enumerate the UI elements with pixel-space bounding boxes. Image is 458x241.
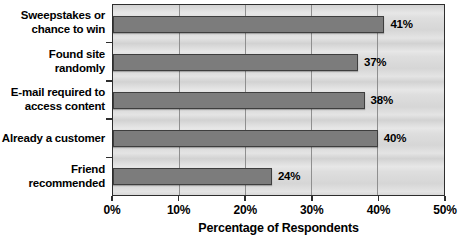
x-axis-tick-label: 50% bbox=[433, 203, 456, 217]
plot-area: 41%37%38%40%24% bbox=[112, 4, 445, 196]
category-labels: Sweepstakes or chance to winFound site r… bbox=[0, 4, 105, 196]
bar bbox=[113, 130, 378, 147]
category-label: Friend recommended bbox=[0, 158, 105, 196]
y-axis-tick bbox=[106, 42, 112, 44]
bar bbox=[113, 168, 272, 185]
x-axis-tick-label: 10% bbox=[167, 203, 190, 217]
x-axis-tick-label: 40% bbox=[367, 203, 390, 217]
x-axis-tick bbox=[378, 196, 380, 201]
bar-row: 24% bbox=[113, 157, 444, 195]
x-axis-tick bbox=[444, 196, 446, 201]
x-axis-title: Percentage of Respondents bbox=[112, 221, 445, 235]
bar-value-label: 40% bbox=[384, 132, 406, 144]
x-axis-tick bbox=[311, 196, 313, 201]
bar-chart: Sweepstakes or chance to winFound site r… bbox=[0, 0, 458, 241]
x-axis-tick-label: 0% bbox=[104, 203, 121, 217]
y-axis-tick bbox=[106, 118, 112, 120]
bar-row: 40% bbox=[113, 119, 444, 157]
category-label: Found site randomly bbox=[0, 42, 105, 80]
bar-row: 38% bbox=[113, 81, 444, 119]
bar-value-label: 37% bbox=[364, 56, 386, 68]
bar bbox=[113, 16, 384, 33]
bar bbox=[113, 54, 358, 71]
category-label: Already a customer bbox=[0, 119, 105, 157]
bar bbox=[113, 92, 365, 109]
bars: 41%37%38%40%24% bbox=[113, 5, 444, 195]
bar-row: 41% bbox=[113, 5, 444, 43]
category-label: Sweepstakes or chance to win bbox=[0, 4, 105, 42]
bar-value-label: 38% bbox=[371, 94, 393, 106]
bar-value-label: 41% bbox=[390, 18, 412, 30]
x-axis-tick-label: 30% bbox=[300, 203, 323, 217]
x-axis-tick bbox=[111, 196, 113, 201]
bar-value-label: 24% bbox=[278, 170, 300, 182]
y-axis-tick bbox=[106, 80, 112, 82]
category-label: E-mail required to access content bbox=[0, 81, 105, 119]
bar-row: 37% bbox=[113, 43, 444, 81]
x-axis-tick bbox=[244, 196, 246, 201]
y-axis-tick bbox=[106, 157, 112, 159]
x-axis-tick bbox=[178, 196, 180, 201]
x-axis-tick-label: 20% bbox=[233, 203, 256, 217]
